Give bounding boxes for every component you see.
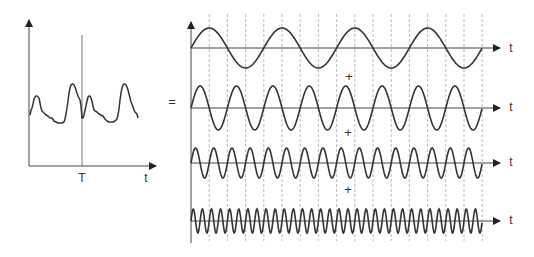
- fourier-decomposition-diagram: T t = t t t t + + +: [0, 0, 534, 257]
- component-1-time-label: t: [509, 42, 512, 54]
- plus-sign-3: +: [344, 183, 352, 196]
- component-2-time-label: t: [509, 101, 512, 113]
- component-4-time-label: t: [509, 214, 512, 226]
- composite-signal-curve: [30, 84, 138, 123]
- left-time-axis-label: t: [144, 172, 147, 184]
- left-period-label: T: [78, 172, 85, 184]
- equals-sign: =: [168, 95, 176, 108]
- plus-sign-2: +: [344, 126, 352, 139]
- component-3-time-label: t: [509, 156, 512, 168]
- plus-sign-1: +: [345, 70, 353, 83]
- left-signal-plot: [29, 20, 156, 166]
